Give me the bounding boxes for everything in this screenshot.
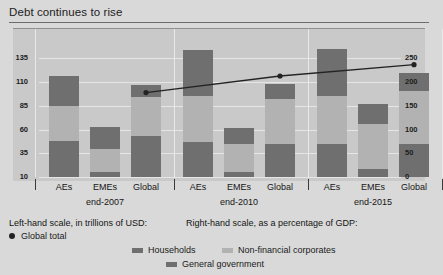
legend-item-households: Households bbox=[132, 245, 196, 255]
plot-area bbox=[13, 28, 425, 181]
right-axis-tick-label: 50 bbox=[405, 148, 427, 157]
global-total-point bbox=[143, 90, 148, 95]
right-axis-tick-label: 250 bbox=[405, 53, 427, 62]
legend-label: General government bbox=[182, 259, 264, 269]
legend-label: Non-financial corporates bbox=[238, 245, 336, 255]
category-label: AEs bbox=[43, 182, 85, 192]
right-axis-tick-label: 150 bbox=[405, 101, 427, 110]
category-label: Global bbox=[259, 182, 301, 192]
category-label: AEs bbox=[177, 182, 219, 192]
global-total-line bbox=[13, 29, 425, 181]
right-scale-note: Right-hand scale, as a percentage of GDP… bbox=[186, 218, 358, 228]
left-axis-tick-label: 135 bbox=[8, 53, 28, 62]
category-label: EMEs bbox=[352, 182, 394, 192]
left-axis-tick-label: 35 bbox=[8, 148, 28, 157]
left-axis-tick-label: 60 bbox=[8, 125, 28, 134]
left-scale-note: Left-hand scale, in trillions of USD: bbox=[9, 218, 147, 228]
category-label: Global bbox=[393, 182, 435, 192]
legend-color-swatch bbox=[132, 248, 143, 253]
global-total-point bbox=[411, 62, 416, 67]
legend-item-government: General government bbox=[166, 259, 264, 269]
category-label: EMEs bbox=[84, 182, 126, 192]
axis-tick-mark bbox=[308, 179, 309, 190]
legend-item-global-total: Global total bbox=[9, 231, 67, 241]
right-axis-tick-label: 100 bbox=[405, 125, 427, 134]
group-label: end-2015 bbox=[307, 197, 439, 207]
title-divider bbox=[9, 22, 429, 23]
legend-color-swatch bbox=[166, 262, 177, 267]
global-total-point bbox=[277, 73, 282, 78]
category-label: Global bbox=[125, 182, 167, 192]
group-label: end-2010 bbox=[173, 197, 305, 207]
left-axis-tick-label: 110 bbox=[8, 77, 28, 86]
category-label: AEs bbox=[311, 182, 353, 192]
axis-tick-mark bbox=[174, 179, 175, 190]
category-label: EMEs bbox=[218, 182, 260, 192]
legend-item-nfc: Non-financial corporates bbox=[222, 245, 336, 255]
legend-label: Global total bbox=[21, 231, 67, 241]
chart-title: Debt continues to rise bbox=[9, 6, 122, 18]
group-label: end-2007 bbox=[39, 197, 171, 207]
category-axis: AEsEMEsGlobalAEsEMEsGlobalAEsEMEsGlobale… bbox=[13, 180, 425, 216]
axis-tick-mark bbox=[35, 179, 36, 190]
left-axis-tick-label: 85 bbox=[8, 101, 28, 110]
legend-color-swatch bbox=[222, 248, 233, 253]
legend-label: Households bbox=[148, 245, 196, 255]
right-axis-tick-label: 200 bbox=[405, 77, 427, 86]
legend-dot-marker bbox=[9, 233, 15, 239]
global-total-polyline bbox=[146, 65, 414, 93]
